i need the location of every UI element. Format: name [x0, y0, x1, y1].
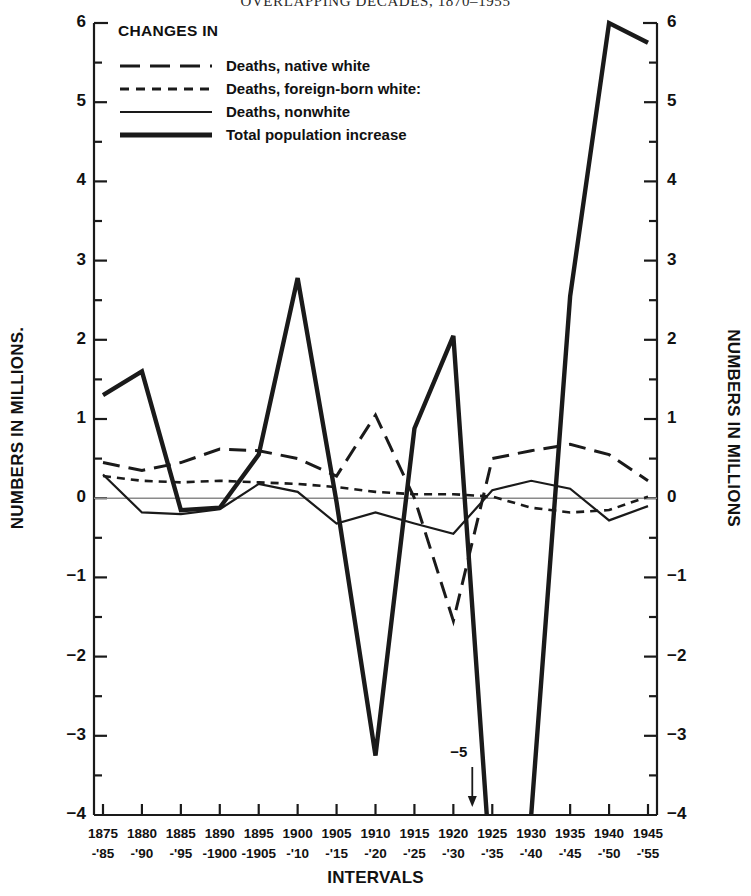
axis-frame: [94, 23, 657, 815]
plot-area: [0, 0, 751, 896]
series-line-deaths-foreign-born-white: [103, 476, 648, 512]
chart-figure: OVERLAPPING DECADES, 1870–1955 CHANGES I…: [0, 0, 751, 896]
series-line-deaths-nonwhite: [103, 474, 648, 533]
series-layer: [103, 23, 648, 894]
series-line-total-population-increase: [103, 23, 648, 894]
annotation-arrow-head: [468, 796, 477, 807]
annotation-neg5-label: −5: [450, 743, 467, 760]
series-line-deaths-native-white: [103, 415, 648, 621]
annotation-layer: [468, 767, 477, 807]
